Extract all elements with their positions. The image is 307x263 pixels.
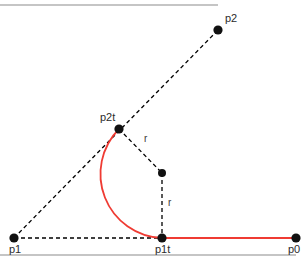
point-label-p2: p2 <box>225 12 237 24</box>
point-marker-p2 <box>213 25 222 34</box>
radius-label-r-upper: r <box>144 133 148 144</box>
construction-line-p1-p2 <box>14 30 218 238</box>
point-markers <box>9 25 300 242</box>
point-label-p0: p0 <box>288 243 300 255</box>
radius-line-p2t-center <box>119 129 162 173</box>
point-label-p2t: p2t <box>100 111 115 123</box>
point-marker-p2t <box>114 124 123 133</box>
point-labels: p0p1p2p1tp2t <box>9 12 300 255</box>
radius-labels: rr <box>144 133 172 208</box>
point-label-p1: p1 <box>9 243 21 255</box>
fillet-diagram: p0p1p2p1tp2t rr <box>0 0 307 263</box>
red-fillet-arc <box>100 129 162 238</box>
diagram-canvas: p0p1p2p1tp2t rr <box>0 0 307 263</box>
point-label-p1t: p1t <box>155 243 170 255</box>
point-marker-center <box>158 169 166 177</box>
point-marker-p1 <box>9 233 18 242</box>
point-marker-p1t <box>157 233 166 242</box>
radius-label-r-lower: r <box>168 197 172 208</box>
construction-lines <box>14 30 218 238</box>
point-marker-p0 <box>291 233 300 242</box>
